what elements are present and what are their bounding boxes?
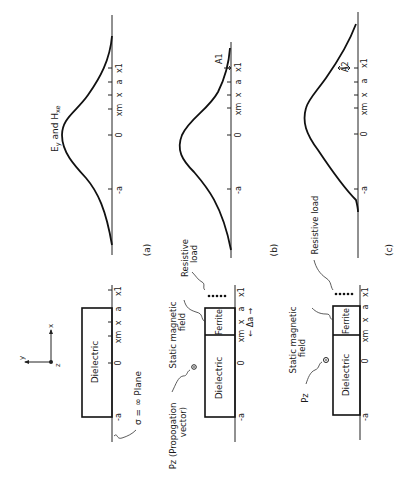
panel-b-field-curve bbox=[180, 48, 231, 250]
tick-a: a bbox=[115, 79, 124, 84]
tick-0: 0 bbox=[115, 132, 124, 137]
svg-text:x: x bbox=[361, 317, 370, 322]
svg-text:x: x bbox=[360, 92, 369, 97]
panel-a-axis-ticks bbox=[108, 68, 112, 189]
panel-b-caption: (b) bbox=[269, 244, 279, 257]
svg-text:x: x bbox=[237, 319, 246, 324]
panel-c-axis-ticks bbox=[354, 68, 358, 189]
svg-text:-a: -a bbox=[234, 186, 243, 194]
svg-text:xm: xm bbox=[361, 330, 370, 343]
panel-c: x1 a x xm 0 -a A2 (c) x1 a x xm 0 -a Fer… bbox=[288, 12, 394, 440]
panel-c-tick-labels: x1 a x xm 0 -a bbox=[360, 58, 369, 194]
svg-text:0: 0 bbox=[360, 131, 369, 136]
panel-c-resistive-dots bbox=[335, 293, 354, 296]
svg-text:0: 0 bbox=[361, 358, 370, 363]
panel-b-propagation-label: Pz (Propogation bbox=[168, 403, 178, 470]
svg-text:0: 0 bbox=[114, 360, 123, 365]
tick-minus-a: -a bbox=[115, 186, 124, 194]
svg-text:-a: -a bbox=[360, 186, 369, 194]
svg-text:z: z bbox=[54, 363, 62, 367]
svg-text:x: x bbox=[47, 324, 55, 328]
panel-a-curve-label: Ey and Hxe bbox=[50, 105, 62, 152]
svg-text:a: a bbox=[237, 306, 246, 311]
panel-c-resistive-load-label: Resistive load bbox=[310, 196, 320, 255]
svg-text:a: a bbox=[361, 304, 370, 309]
svg-text:y: y bbox=[18, 356, 26, 360]
svg-text:0: 0 bbox=[234, 132, 243, 137]
panel-c-ferrite-label: Ferrite bbox=[342, 308, 351, 334]
panel-b-structure-tick-labels: x1 a x xm 0 -a bbox=[237, 287, 246, 421]
tick-x1: x1 bbox=[115, 63, 124, 73]
panel-a-tick-labels: x1 a x xm 0 -a bbox=[115, 63, 124, 194]
panel-b-delta-a: ← Δa → bbox=[246, 307, 255, 336]
svg-text:x: x bbox=[234, 92, 243, 97]
panel-b-dielectric-label: Dielectric bbox=[214, 357, 224, 400]
svg-text:-a: -a bbox=[237, 413, 246, 421]
panel-c-dielectric-label: Dielectric bbox=[341, 354, 351, 397]
panel-b-axis-ticks bbox=[227, 68, 231, 189]
panel-c-structure-tick-labels: x1 a x xm 0 -a bbox=[361, 287, 370, 421]
tick-x: x bbox=[115, 92, 124, 97]
svg-text:field: field bbox=[177, 313, 187, 331]
panel-b: x1 a x xm 0 -a A1 (b) x1 a x xm 0 -a ← Δ… bbox=[168, 42, 279, 469]
panel-b-tick-labels: x1 a x xm 0 -a bbox=[234, 62, 243, 194]
svg-text:xm: xm bbox=[114, 331, 123, 344]
svg-text:a: a bbox=[234, 79, 243, 84]
svg-text:load: load bbox=[189, 245, 199, 263]
svg-text:a: a bbox=[114, 306, 123, 311]
svg-text:xm: xm bbox=[237, 330, 246, 343]
panel-a-dielectric-label: Dielectric bbox=[90, 341, 100, 384]
svg-text:-a: -a bbox=[361, 413, 370, 421]
svg-text:field: field bbox=[297, 339, 307, 357]
svg-text:x1: x1 bbox=[361, 287, 370, 297]
panel-a-caption: (a) bbox=[142, 244, 152, 257]
panel-b-ferrite-label: Ferrite bbox=[215, 309, 224, 335]
svg-text:xm: xm bbox=[360, 103, 369, 116]
svg-text:x1: x1 bbox=[234, 62, 243, 72]
svg-text:vector): vector) bbox=[178, 407, 188, 437]
panel-a-field-curve bbox=[62, 36, 112, 245]
panel-b-a1-label: A1 bbox=[215, 53, 224, 64]
panel-c-field-curve bbox=[305, 24, 359, 212]
panel-a-boundary-label: σ = ∞ Plane bbox=[133, 371, 143, 425]
svg-text:-a: -a bbox=[114, 413, 123, 421]
panel-b-static-field-label: Static magnetic bbox=[168, 301, 178, 368]
svg-text:x: x bbox=[114, 320, 123, 325]
field-distribution-figure: x1 a x xm 0 -a Ey and Hxe (a) x1 a x xm … bbox=[0, 0, 403, 480]
coordinate-axes-icon: x y z bbox=[18, 324, 62, 367]
svg-text:x1: x1 bbox=[114, 286, 123, 296]
panel-b-resistive-dots bbox=[208, 295, 227, 298]
panel-c-a2-label: A2 bbox=[341, 61, 350, 72]
panel-c-caption: (c) bbox=[384, 244, 394, 256]
svg-text:xm: xm bbox=[234, 103, 243, 116]
svg-text:0: 0 bbox=[237, 360, 246, 365]
panel-a-structure-tick-labels: x1 a x xm 0 -a bbox=[114, 286, 123, 421]
panel-a-boundary-leader bbox=[114, 430, 136, 438]
panel-a: x1 a x xm 0 -a Ey and Hxe (a) x1 a x xm … bbox=[18, 15, 152, 442]
svg-text:x1: x1 bbox=[360, 58, 369, 68]
svg-text:a: a bbox=[360, 78, 369, 83]
panel-c-propagation-label: Pz bbox=[300, 393, 310, 403]
svg-text:x1: x1 bbox=[237, 287, 246, 297]
tick-xm: xm bbox=[115, 104, 124, 117]
